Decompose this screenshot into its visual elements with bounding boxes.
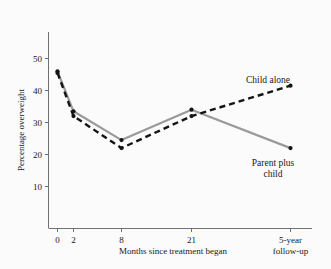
- y-axis-title: Percentage overweight: [16, 88, 26, 171]
- series-label-parent-plus-child-line1: Parent plus: [252, 158, 295, 168]
- x-tick-label-0: 0: [55, 235, 60, 245]
- y-tick-label-20: 20: [33, 150, 43, 160]
- series-label-parent-plus-child-line2: child: [264, 169, 283, 179]
- x-axis-title: Months since treatment began: [119, 246, 228, 256]
- x-tick-label-21: 21: [187, 235, 196, 245]
- y-tick-label-40: 40: [33, 86, 43, 96]
- data-point: [71, 114, 75, 118]
- line-chart: 50 40 30 20 10 0 2 8 21 5-year follow-up…: [0, 0, 331, 269]
- series-label-child-alone: Child alone: [246, 75, 290, 85]
- x-tick-label-5-year-line2: follow-up: [273, 246, 309, 256]
- y-tick-label-10: 10: [33, 182, 43, 192]
- x-tick-label-5-year: 5-year: [279, 235, 302, 245]
- data-point: [119, 138, 123, 142]
- data-point: [55, 71, 59, 75]
- data-point: [288, 146, 292, 150]
- x-tick-label-2: 2: [71, 235, 76, 245]
- data-point: [119, 146, 123, 150]
- data-point: [189, 108, 193, 112]
- y-tick-label-30: 30: [33, 118, 43, 128]
- data-point: [189, 114, 193, 118]
- y-tick-label-50: 50: [33, 54, 43, 64]
- chart-figure: 50 40 30 20 10 0 2 8 21 5-year follow-up…: [0, 0, 331, 269]
- x-tick-label-8: 8: [119, 235, 124, 245]
- data-point: [71, 109, 75, 113]
